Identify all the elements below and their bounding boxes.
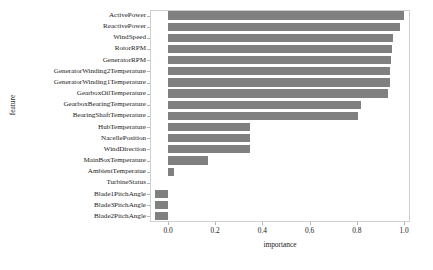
y-tick-label: MainBoxTemperature xyxy=(0,155,146,166)
x-tick-mark xyxy=(404,222,405,225)
y-tick-label: TurbineStatus xyxy=(0,177,146,188)
x-tick-label: 0.2 xyxy=(211,226,220,235)
x-axis-title: importance xyxy=(263,240,296,249)
bar xyxy=(168,168,174,176)
bar-row xyxy=(150,211,410,222)
bar-row xyxy=(150,77,410,88)
bar xyxy=(168,112,358,120)
y-axis-tick-labels: ActivePowerReactivePowerWindSpeedRotorRP… xyxy=(0,10,146,222)
bar-row xyxy=(150,189,410,200)
x-tick-label: 0.6 xyxy=(305,226,314,235)
x-tick-mark xyxy=(168,222,169,225)
x-tick-label: 1.0 xyxy=(399,226,408,235)
bar-row xyxy=(150,10,410,21)
y-tick-label: WindDirection xyxy=(0,144,146,155)
bar xyxy=(155,201,168,209)
bar xyxy=(168,123,250,131)
x-tick-mark xyxy=(262,222,263,225)
bar xyxy=(168,23,400,31)
y-tick-label: Blade3PitchAngle xyxy=(0,200,146,211)
y-tick-label: Blade2PitchAngle xyxy=(0,211,146,222)
y-tick-label: ActivePower xyxy=(0,10,146,21)
x-tick-label: 0.0 xyxy=(163,226,172,235)
y-tick-label: GearboxBearingTemperature xyxy=(0,99,146,110)
y-tick-label: ReactivePower xyxy=(0,21,146,32)
bar xyxy=(168,156,208,164)
bar-row xyxy=(150,133,410,144)
y-tick-label: RotorRPM xyxy=(0,43,146,54)
y-tick-label: BearingShaftTemperature xyxy=(0,110,146,121)
x-tick-mark xyxy=(310,222,311,225)
bar-row xyxy=(150,32,410,43)
bar-row xyxy=(150,155,410,166)
bar-row xyxy=(150,110,410,121)
bar-row xyxy=(150,21,410,32)
bar xyxy=(155,212,168,220)
bar-series xyxy=(150,10,410,222)
bar-row xyxy=(150,144,410,155)
y-tick-label: GeneratorRPM xyxy=(0,55,146,66)
bar xyxy=(168,89,388,97)
bar xyxy=(168,67,390,75)
bar-row xyxy=(150,66,410,77)
bar xyxy=(168,56,391,64)
x-axis-ticks: 0.00.20.40.60.81.0 xyxy=(0,222,433,242)
x-tick-label: 0.4 xyxy=(258,226,267,235)
feature-importance-chart: feature ActivePowerReactivePowerWindSpee… xyxy=(0,0,433,270)
y-tick-label: NacellePosition xyxy=(0,133,146,144)
bar-row xyxy=(150,43,410,54)
y-tick-label: GeneratorWinding1Temperature xyxy=(0,77,146,88)
y-tick-label: WindSpeed xyxy=(0,32,146,43)
x-tick-mark xyxy=(357,222,358,225)
bar xyxy=(168,45,392,53)
bar xyxy=(168,101,361,109)
bar xyxy=(168,34,393,42)
y-tick-label: Blade1PitchAngle xyxy=(0,189,146,200)
y-tick-label: HubTemperature xyxy=(0,122,146,133)
bar-row xyxy=(150,55,410,66)
bar xyxy=(168,145,250,153)
x-tick-mark xyxy=(215,222,216,225)
bar-row xyxy=(150,166,410,177)
y-tick-label: GeneratorWinding2Temperature xyxy=(0,66,146,77)
y-tick-label: AmbientTemperatue xyxy=(0,166,146,177)
bar-row xyxy=(150,122,410,133)
bar-row xyxy=(150,88,410,99)
x-tick-label: 0.8 xyxy=(352,226,361,235)
y-tick-label: GearboxOilTemperature xyxy=(0,88,146,99)
bar-row xyxy=(150,99,410,110)
bar xyxy=(155,190,168,198)
bar xyxy=(168,134,250,142)
bar-row xyxy=(150,200,410,211)
bar-row xyxy=(150,177,410,188)
bar xyxy=(168,78,390,86)
bar xyxy=(168,11,404,19)
